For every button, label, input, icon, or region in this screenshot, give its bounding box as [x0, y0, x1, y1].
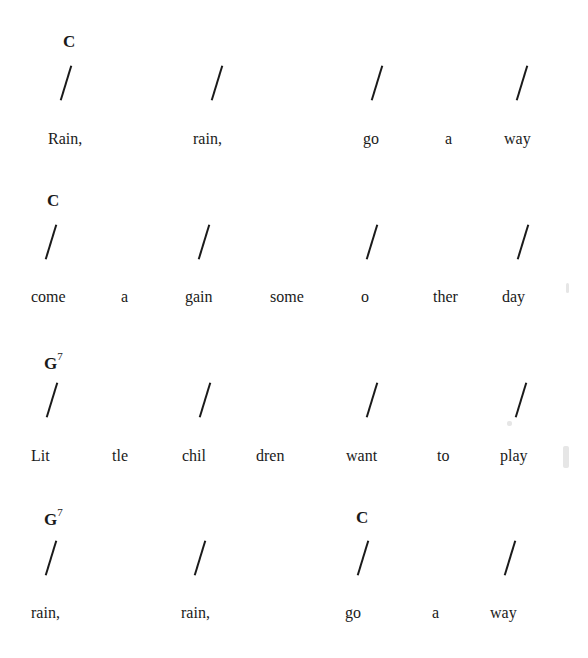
- chord-symbol: C: [47, 191, 59, 211]
- beat-slash-icon: [60, 65, 72, 100]
- lyric-syllable: want: [346, 447, 377, 465]
- lyric-syllable: rain,: [193, 130, 222, 148]
- chord-symbol: C: [356, 508, 368, 528]
- beat-slash-icon: [371, 65, 383, 100]
- lyric-syllable: gain: [185, 288, 213, 306]
- lyric-syllable: way: [504, 130, 531, 148]
- lyric-syllable: Lit: [31, 447, 50, 465]
- lyric-syllable: Rain,: [48, 130, 82, 148]
- chord-name: C: [63, 32, 75, 51]
- lyric-syllable: go: [345, 604, 361, 622]
- beat-slash-icon: [45, 540, 57, 575]
- chord-name: G: [44, 354, 57, 373]
- beat-slash-icon: [194, 540, 206, 575]
- lyric-syllable: a: [121, 288, 128, 306]
- beat-slash-icon: [504, 540, 516, 575]
- chord-symbol: G7: [44, 352, 63, 374]
- lyric-syllable: o: [361, 288, 369, 306]
- lyric-syllable: play: [500, 447, 528, 465]
- lyric-syllable: tle: [112, 447, 128, 465]
- chord-symbol: G7: [44, 508, 63, 530]
- beat-slash-icon: [45, 224, 57, 259]
- chord-name: C: [356, 508, 368, 527]
- lyric-syllable: dren: [256, 447, 284, 465]
- chord-name: G: [44, 510, 57, 529]
- lyric-syllable: rain,: [31, 604, 60, 622]
- chord-extension: 7: [57, 506, 63, 518]
- lyric-syllable: to: [437, 447, 449, 465]
- beat-slash-icon: [211, 65, 223, 100]
- chord-name: C: [47, 191, 59, 210]
- lyric-syllable: way: [490, 604, 517, 622]
- beat-slash-icon: [357, 540, 369, 575]
- lyric-syllable: come: [31, 288, 66, 306]
- scan-speck: [566, 283, 569, 293]
- chord-symbol: C: [63, 32, 75, 52]
- beat-slash-icon: [198, 224, 210, 259]
- lyric-syllable: go: [363, 130, 379, 148]
- lyric-syllable: rain,: [181, 604, 210, 622]
- beat-slash-icon: [366, 224, 378, 259]
- beat-slash-icon: [516, 65, 528, 100]
- lyric-syllable: some: [270, 288, 304, 306]
- lyric-syllable: chil: [182, 447, 206, 465]
- beat-slash-icon: [515, 382, 527, 417]
- beat-slash-icon: [46, 382, 58, 417]
- scan-speck: [563, 446, 569, 468]
- chord-extension: 7: [57, 350, 63, 362]
- lyric-syllable: a: [445, 130, 452, 148]
- beat-slash-icon: [517, 224, 529, 259]
- beat-slash-icon: [199, 382, 211, 417]
- beat-slash-icon: [366, 382, 378, 417]
- lyric-syllable: ther: [433, 288, 458, 306]
- scan-speck: [507, 421, 512, 426]
- lyric-syllable: day: [502, 288, 525, 306]
- lyric-syllable: a: [432, 604, 439, 622]
